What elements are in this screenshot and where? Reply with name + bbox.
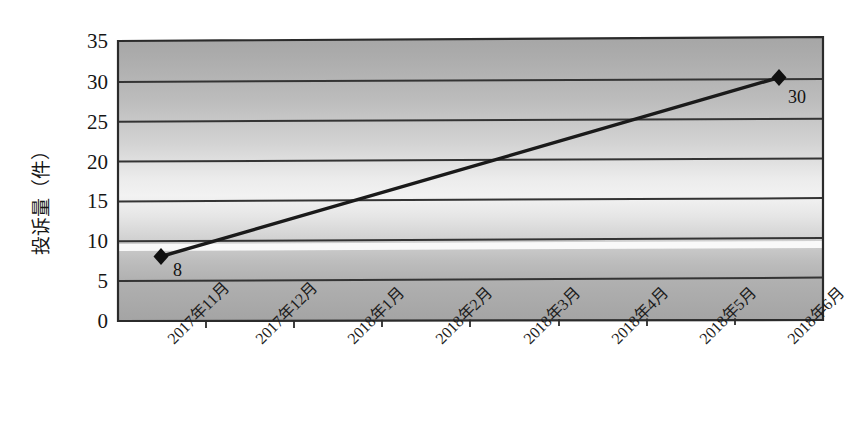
data-point-label-first: 8: [173, 260, 182, 280]
y-tick-label: 10: [87, 229, 108, 253]
y-tick-label: 5: [98, 269, 109, 293]
y-tick-label: 0: [98, 309, 109, 333]
y-tick-label: 15: [87, 189, 108, 213]
y-tick-label: 30: [87, 70, 108, 94]
line-chart: 35 30 25 20 15 10 5 0 投诉量（件） 2017年11月 20…: [0, 0, 866, 436]
y-axis-ticks: 35 30 25 20 15 10 5 0: [87, 29, 108, 333]
chart-container: 35 30 25 20 15 10 5 0 投诉量（件） 2017年11月 20…: [0, 0, 866, 436]
y-axis-title: 投诉量（件）: [30, 141, 52, 255]
plot-area: [118, 37, 823, 321]
y-tick-label: 20: [87, 150, 108, 174]
data-point-label-last: 30: [788, 87, 806, 107]
y-tick-label: 25: [87, 110, 108, 134]
y-tick-label: 35: [87, 29, 108, 53]
